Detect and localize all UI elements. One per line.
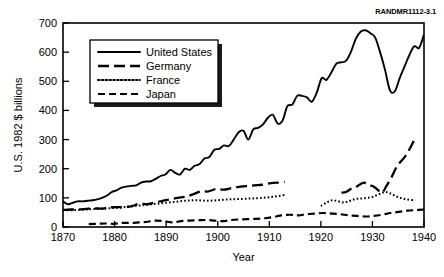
- x-axis-title: Year: [232, 251, 255, 263]
- svg-text:400: 400: [39, 104, 57, 116]
- svg-text:500: 500: [39, 75, 57, 87]
- legend-label-france: France: [146, 74, 180, 86]
- svg-text:1920: 1920: [309, 231, 333, 243]
- svg-text:1900: 1900: [205, 231, 229, 243]
- legend-label-japan: Japan: [146, 88, 176, 100]
- svg-text:1880: 1880: [102, 231, 126, 243]
- svg-text:1890: 1890: [154, 231, 178, 243]
- svg-text:100: 100: [39, 192, 57, 204]
- legend-label-united-states: United States: [146, 46, 213, 58]
- series-line-germany: [63, 182, 285, 210]
- line-chart: 0100200300400500600700187018801890190019…: [0, 0, 444, 277]
- svg-text:700: 700: [39, 17, 57, 29]
- svg-text:1870: 1870: [51, 231, 75, 243]
- svg-text:1940: 1940: [412, 231, 436, 243]
- svg-text:600: 600: [39, 46, 57, 58]
- svg-text:1930: 1930: [360, 231, 384, 243]
- legend-label-germany: Germany: [146, 60, 192, 72]
- series-line-france: [321, 192, 414, 206]
- svg-text:300: 300: [39, 134, 57, 146]
- y-axis-title: U.S. 1982 $ billions: [12, 77, 24, 172]
- series-line-japan: [89, 210, 424, 225]
- chart-figure: RANDMR1112-3.1 0100200300400500600700187…: [0, 0, 444, 277]
- svg-text:1910: 1910: [257, 231, 281, 243]
- series-line-germany: [341, 141, 413, 193]
- svg-text:200: 200: [39, 163, 57, 175]
